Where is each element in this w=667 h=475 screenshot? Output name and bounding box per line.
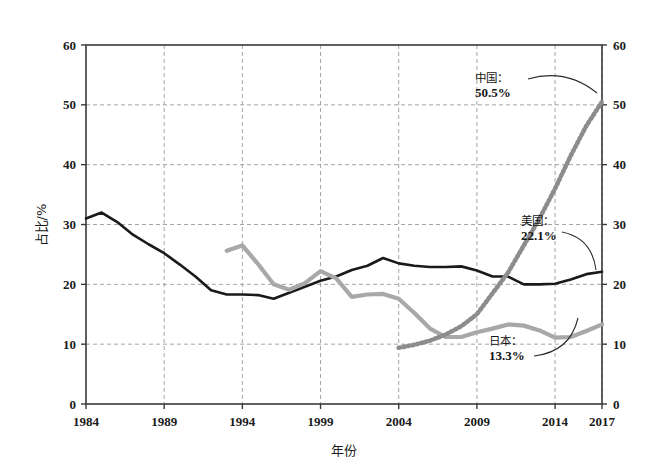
- y-tick-label-left: 0: [70, 397, 77, 412]
- annotation-japan: 日本：13.3%: [489, 334, 525, 363]
- y-tick-label-left: 30: [63, 217, 76, 232]
- line-chart: 0102030405060 0102030405060 198419891994…: [0, 0, 667, 475]
- y-tick-label-left: 10: [63, 337, 76, 352]
- annotation-usa: 美国：22.1%: [521, 214, 557, 243]
- y-tick-label-left: 40: [63, 157, 76, 172]
- y-tick-label-left: 60: [63, 38, 76, 53]
- x-tick-label: 1984: [73, 414, 100, 429]
- x-tick-label: 1989: [151, 414, 178, 429]
- annotation-country-japan: 日本：: [489, 334, 522, 348]
- annotation-value-china: 50.5%: [475, 85, 511, 100]
- annotation-country-usa: 美国：: [521, 214, 554, 228]
- annotation-country-china: 中国：: [475, 71, 508, 85]
- y-tick-label-right: 0: [613, 397, 620, 412]
- x-tick-label: 1999: [308, 414, 335, 429]
- annotation-value-japan: 13.3%: [489, 348, 525, 363]
- y-axis-label: 占比/%: [34, 204, 49, 247]
- y-tick-label-right: 10: [613, 337, 626, 352]
- y-tick-label-left: 20: [63, 277, 76, 292]
- x-tick-label: 2014: [542, 414, 569, 429]
- x-tick-label: 2017: [589, 414, 616, 429]
- y-tick-label-right: 20: [613, 277, 626, 292]
- y-tick-label-left: 50: [63, 97, 76, 112]
- y-tick-label-right: 60: [613, 38, 626, 53]
- annotation-china: 中国：50.5%: [475, 71, 511, 100]
- y-tick-label-right: 30: [613, 217, 626, 232]
- chart-container: 0102030405060 0102030405060 198419891994…: [0, 0, 667, 475]
- y-tick-label-right: 50: [613, 97, 626, 112]
- x-tick-label: 1994: [229, 414, 256, 429]
- x-axis-label: 年份: [331, 443, 357, 458]
- x-tick-label: 2009: [464, 414, 491, 429]
- y-tick-label-right: 40: [613, 157, 626, 172]
- x-tick-label: 2004: [386, 414, 413, 429]
- annotation-value-usa: 22.1%: [521, 228, 557, 243]
